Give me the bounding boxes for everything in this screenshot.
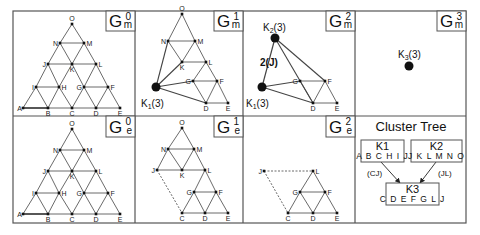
node-label-D: D — [310, 105, 315, 112]
panel-label-Gm2: G — [329, 12, 342, 31]
node-M — [193, 148, 196, 151]
cluster-label-K1: K1(3) — [246, 98, 269, 110]
panel-Gm0: ONMJKLIHGFABCDEG0m — [17, 11, 135, 117]
node-label-F: F — [219, 189, 223, 196]
node-E — [119, 107, 122, 110]
node-label-J: J — [43, 61, 47, 68]
node-label-M: M — [87, 40, 93, 47]
node-G — [299, 80, 302, 83]
node-E — [336, 212, 339, 215]
node-B — [47, 107, 50, 110]
cluster-node-K1 — [152, 83, 161, 92]
node-label-I: I — [32, 190, 34, 197]
node-M — [194, 40, 197, 43]
node-N — [59, 149, 62, 152]
node-I — [35, 86, 38, 89]
panel-subscript: e — [126, 125, 132, 136]
node-F — [107, 192, 110, 195]
dashed-edge-J-C — [157, 170, 182, 213]
node-label-L: L — [209, 59, 213, 66]
node-M — [83, 42, 86, 45]
edge-F-D — [313, 192, 325, 213]
node-label-N: N — [53, 40, 58, 47]
edge-O-M — [182, 128, 194, 149]
edge-O-N — [60, 129, 72, 150]
cluster-edge-label: 2(J) — [260, 57, 278, 68]
node-label-C: C — [69, 110, 74, 117]
panel-label-Ge1: G — [217, 118, 230, 137]
node-D — [95, 107, 98, 110]
tree-node-members: C D E F G L J — [380, 194, 446, 204]
node-N — [59, 42, 62, 45]
edge-G-D — [194, 192, 205, 213]
edge-I-A — [23, 193, 36, 214]
edge-G-D — [84, 193, 96, 214]
node-M — [83, 149, 86, 152]
panel-subscript: m — [232, 19, 240, 30]
edge-H-B — [48, 87, 59, 108]
node-L — [95, 63, 98, 66]
edge-L-G — [84, 64, 96, 87]
node-label-F: F — [220, 78, 224, 85]
node-D — [312, 212, 315, 215]
panel-label-Ge0: G — [109, 118, 122, 137]
node-label-E: E — [335, 105, 340, 112]
node-K — [71, 170, 74, 173]
cluster-tree-title: Cluster Tree — [376, 119, 447, 134]
panel-label-Ge2: G — [329, 118, 342, 137]
node-H — [58, 86, 61, 89]
edge-L-G — [194, 170, 205, 192]
node-E — [227, 212, 230, 215]
node-label-B: B — [46, 110, 51, 117]
node-C — [71, 107, 74, 110]
node-label-G: G — [293, 189, 298, 196]
node-G — [83, 192, 86, 195]
node-B — [47, 213, 50, 216]
edge-M-K — [182, 41, 195, 62]
cluster-label-K2: K2(3) — [263, 22, 286, 34]
edge-F-D — [206, 81, 217, 103]
edge-M-K — [72, 43, 84, 64]
node-label-J: J — [43, 168, 47, 175]
node-label-L: L — [208, 167, 212, 174]
node-label-K: K — [70, 173, 75, 180]
node-label-N: N — [53, 147, 58, 154]
node-label-I: I — [32, 84, 34, 91]
node-label-A: A — [17, 105, 22, 112]
node-label-C: C — [69, 216, 74, 223]
cluster-tree-panel: Cluster Tree(CJ)(JL)K1A B C H I JK2J K L… — [356, 119, 465, 205]
diagram-canvas: ONMJKLIHGFABCDEG0mONMKLGFDEK1(3)G1m2(J)G… — [0, 0, 480, 235]
tree-edge-label: (CJ) — [367, 169, 382, 178]
node-label-O: O — [179, 5, 185, 12]
node-L — [95, 170, 98, 173]
node-label-G: G — [186, 78, 191, 85]
node-label-G: G — [187, 189, 192, 196]
node-label-E: E — [226, 215, 231, 222]
cluster-edge-K2-F — [275, 38, 325, 81]
edge-F-D — [96, 87, 108, 108]
cluster-label-K3: K3(3) — [398, 49, 421, 61]
node-F — [216, 80, 219, 83]
panel-label-Gm0: G — [109, 12, 122, 31]
node-label-A: A — [17, 211, 22, 218]
node-D — [205, 102, 208, 105]
node-G — [83, 86, 86, 89]
edge-G-D — [84, 87, 96, 108]
panel-subscript: m — [124, 19, 132, 30]
node-J — [47, 63, 50, 66]
edge-O-M — [72, 24, 84, 43]
node-H — [58, 192, 61, 195]
node-D — [95, 213, 98, 216]
node-label-D: D — [93, 216, 98, 223]
node-O — [71, 128, 74, 131]
node-K — [181, 169, 184, 172]
edge-I-B — [36, 87, 48, 108]
node-label-O: O — [69, 15, 75, 22]
node-label-F: F — [328, 189, 332, 196]
dashed-edge-J-C — [264, 171, 288, 213]
node-F — [215, 191, 218, 194]
edge-O-M — [182, 14, 195, 41]
edge-H-B — [48, 193, 59, 214]
tree-node-members: A B C H I J — [356, 151, 409, 161]
node-D — [204, 212, 207, 215]
